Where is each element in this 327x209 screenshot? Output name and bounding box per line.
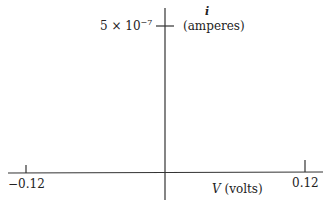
- y-axis-unit: (amperes): [183, 19, 245, 33]
- chart-axes: [0, 0, 327, 209]
- x-axis-label: V (volts): [212, 182, 263, 196]
- y-axis-symbol: i: [205, 5, 209, 18]
- x-tick-label-right: 0.12: [292, 176, 319, 190]
- y-tick-label: 5 × 10−7: [100, 18, 152, 33]
- x-tick-label-left: −0.12: [8, 177, 45, 191]
- x-axis: [8, 172, 323, 173]
